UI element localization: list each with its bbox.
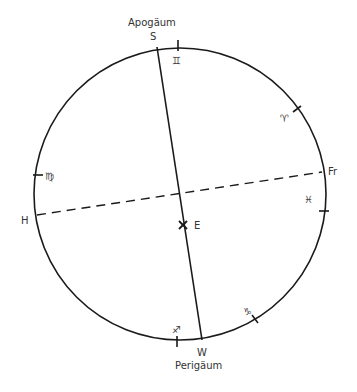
orbit-diagram: Apogäum Perigäum S W H Fr E ♊ ♈ ♓ ♍ ♑ ♐ [0,0,357,392]
virgo-icon: ♍ [45,171,54,182]
point-label-w: W [197,347,207,358]
point-label-h: H [21,215,29,226]
point-label-fr: Fr [328,166,338,177]
point-label-s: S [150,31,156,42]
sagittarius-icon: ♐ [172,324,181,335]
pisces-icon: ♓ [304,194,313,205]
earth-marker [179,221,187,229]
point-label-e: E [194,220,200,231]
aries-icon: ♈ [280,113,289,124]
apsidal-line [157,47,202,340]
perigee-label: Perigäum [175,360,222,371]
apogee-label: Apogäum [128,17,176,28]
capricorn-icon: ♑ [243,306,252,317]
gemini-icon: ♊ [172,55,181,66]
tick-capricorn [252,315,258,323]
